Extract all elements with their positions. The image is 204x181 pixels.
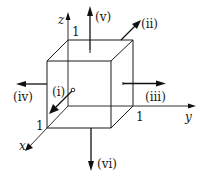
normal-v: [87, 6, 93, 53]
normal-vi: [88, 128, 94, 171]
x-unit-tick-label: 1: [36, 119, 44, 133]
y-unit-tick-label: 1: [136, 110, 144, 124]
cube-edge: [111, 106, 133, 128]
z-axis-label: z: [57, 13, 65, 27]
x-axis-label: x: [19, 139, 26, 153]
labels: z y x 1 1 1 (v) (ii) (iii) (iv) (i) (vi): [13, 10, 192, 171]
normal-iii-arrowhead-icon: [156, 81, 166, 87]
normal-v-arrowhead-icon: [87, 6, 93, 16]
x-axis: [29, 106, 68, 147]
normal-vi-arrowhead-icon: [88, 161, 94, 171]
y-axis-label: y: [184, 110, 192, 124]
unit-cube-diagram: z y x 1 1 1 (v) (ii) (iii) (iv) (i) (vi): [0, 0, 204, 181]
normal-ii-shaft: [121, 25, 136, 40]
normal-vi-label: (vi): [97, 157, 117, 171]
y-axis-arrowhead-icon: [188, 104, 196, 109]
normal-iii-label: (iii): [145, 90, 166, 104]
normal-iv-arrowhead-icon: [16, 81, 26, 87]
cube-edge: [47, 40, 68, 61]
normal-i-label: (i): [52, 85, 65, 99]
z-unit-tick-label: 1: [72, 25, 80, 39]
normal-iv: [16, 81, 47, 87]
z-axis-arrowhead-icon: [66, 12, 71, 20]
normal-v-label: (v): [95, 10, 111, 24]
normal-iv-label: (iv): [13, 90, 33, 104]
normal-ii-label: (ii): [141, 17, 158, 31]
cube-edge: [111, 40, 133, 61]
normal-iii: [123, 81, 166, 87]
normal-ii: [121, 20, 141, 40]
